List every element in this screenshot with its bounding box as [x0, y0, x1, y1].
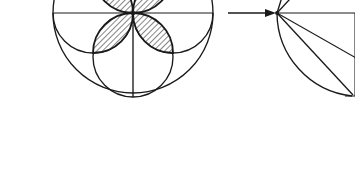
petal-lower-right	[133, 13, 173, 53]
left-rosette-figure	[53, 0, 213, 97]
geometry-figure	[0, 0, 355, 177]
transformation-arrow	[228, 9, 276, 17]
rosette-center-point	[131, 11, 135, 15]
sector-vertex-point	[275, 11, 279, 15]
right-sector-figure	[275, 0, 355, 96]
petal-upper-right	[133, 0, 173, 13]
petal-lower-left	[93, 13, 133, 53]
petal-upper-left	[93, 0, 133, 13]
sector-chord-shallow	[277, 13, 355, 58]
arrow-head	[265, 9, 276, 17]
